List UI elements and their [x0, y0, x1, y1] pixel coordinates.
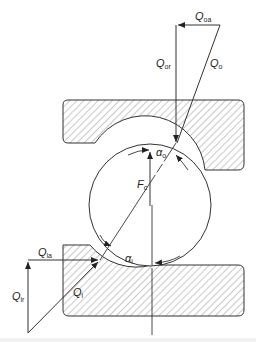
- label-Q-o: Qo: [210, 57, 223, 70]
- label-Q-oa: Qoa: [195, 10, 211, 23]
- label-Q-or: Qor: [156, 57, 171, 70]
- bottom-strip: [0, 338, 256, 342]
- bearing-force-diagram: Qoa Qor Qo αo Fc Qia αi Qir Qi: [0, 0, 256, 342]
- label-Q-ir: Qir: [12, 290, 25, 303]
- label-Q-ia: Qia: [38, 246, 52, 259]
